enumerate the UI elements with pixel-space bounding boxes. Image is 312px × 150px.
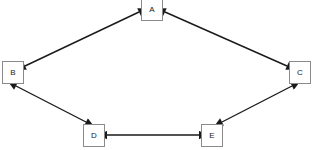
node-label-d: D [91, 132, 97, 140]
graph-node-b[interactable]: B [2, 61, 24, 84]
edge-c-e [222, 86, 292, 122]
node-label-e: E [209, 132, 215, 140]
node-label-b: B [10, 69, 16, 77]
edge-b-d [16, 86, 86, 122]
edge-a-b [25, 12, 139, 66]
diagram-canvas: A B C D E [0, 0, 312, 150]
edge-layer [0, 0, 312, 150]
node-label-a: A [149, 6, 155, 14]
graph-node-d[interactable]: D [83, 124, 105, 147]
node-label-c: C [297, 69, 303, 77]
edge-a-c [165, 12, 287, 66]
graph-node-c[interactable]: C [289, 61, 311, 84]
graph-node-e[interactable]: E [201, 124, 223, 147]
graph-node-a[interactable]: A [141, 0, 163, 21]
